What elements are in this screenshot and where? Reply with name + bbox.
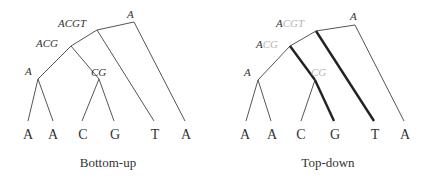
leaf-4: G <box>110 127 120 142</box>
edge-cg-leaf3 <box>301 80 315 121</box>
edge-cg-leaf4-highlighted <box>315 80 334 121</box>
node-label-root: A <box>126 8 134 20</box>
leaf-6: A <box>181 127 192 142</box>
node-label-acgt-rest: CGT <box>283 17 305 29</box>
edge-a-leaf2 <box>258 80 271 121</box>
edge-root-leaf6 <box>134 22 185 121</box>
edge-cg-leaf4 <box>99 79 114 121</box>
edge-a-leaf1 <box>246 80 258 121</box>
edge-acg-a <box>258 46 290 80</box>
top-down-tree: A ACGT ACG A CG A A C G T A Top-down <box>240 10 411 170</box>
leaf-5: T <box>151 127 160 142</box>
leaf-4: G <box>330 127 340 142</box>
node-label-acg: ACG <box>255 38 278 50</box>
node-label-acg-rest: CG <box>263 38 278 50</box>
leaf-1: A <box>23 127 34 142</box>
node-label-acgt: ACGT <box>57 17 87 29</box>
edge-a-leaf2 <box>38 79 53 121</box>
edge-acgt-acg <box>290 31 316 46</box>
node-label-cg: CG <box>311 66 326 78</box>
parsimony-tree-figure: A ACGT ACG A CG A A C G T A Bottom-up A … <box>0 0 433 182</box>
caption-bottom-up: Bottom-up <box>80 155 136 170</box>
edge-root-leaf6 <box>355 25 404 121</box>
caption-top-down: Top-down <box>301 155 355 170</box>
node-label-cg: CG <box>91 66 106 78</box>
node-label-acgt: ACGT <box>275 17 305 29</box>
edge-root-acgt <box>316 25 355 31</box>
leaf-3: C <box>78 127 87 142</box>
leaf-2: A <box>48 127 59 142</box>
leaf-2: A <box>267 127 278 142</box>
leaf-1: A <box>240 127 251 142</box>
edge-acg-a <box>38 46 71 79</box>
leaf-3: C <box>296 127 305 142</box>
edge-a-leaf1 <box>28 79 38 121</box>
edge-root-acgt <box>97 22 134 30</box>
edge-acgt-acg <box>71 30 97 46</box>
leaf-5: T <box>371 127 380 142</box>
bottom-up-tree: A ACGT ACG A CG A A C G T A Bottom-up <box>23 8 192 170</box>
edge-cg-leaf3 <box>82 79 99 121</box>
leaf-6: A <box>400 127 411 142</box>
node-label-acg: ACG <box>35 37 58 49</box>
node-label-a: A <box>24 65 32 77</box>
node-label-root: A <box>349 10 357 22</box>
node-label-a: A <box>243 66 251 78</box>
